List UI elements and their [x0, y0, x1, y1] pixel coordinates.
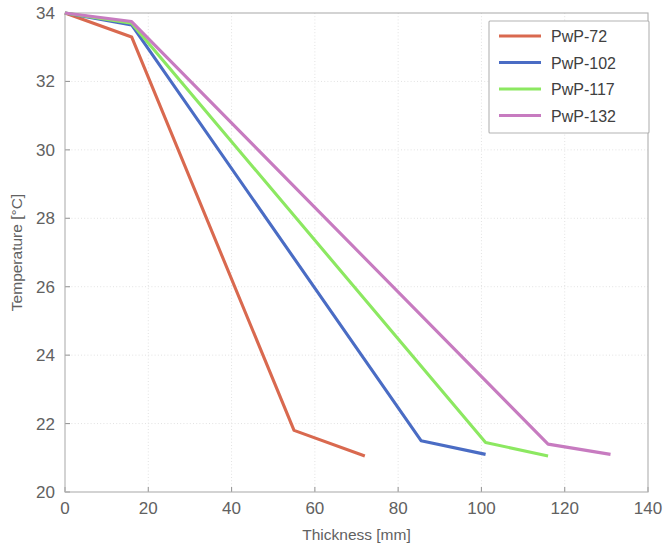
x-tick-label: 20	[139, 499, 158, 518]
chart-figure: 020406080100120140 2022242628303234 Thic…	[0, 0, 664, 544]
legend: PwP-72PwP-102PwP-117PwP-132	[489, 21, 649, 133]
y-tick-label: 34	[36, 4, 55, 23]
y-tick-label: 30	[36, 141, 55, 160]
x-tick-label: 60	[305, 499, 324, 518]
y-tick-label: 28	[36, 209, 55, 228]
y-tick-label: 26	[36, 278, 55, 297]
legend-label-pwp-102: PwP-102	[551, 55, 616, 72]
x-tick-label: 80	[389, 499, 408, 518]
y-tick-label: 24	[36, 346, 55, 365]
x-tick-label: 120	[551, 499, 579, 518]
legend-label-pwp-72: PwP-72	[551, 28, 607, 45]
x-tick-label: 100	[467, 499, 495, 518]
y-tick-label: 20	[36, 483, 55, 502]
y-axis-tick-labels: 2022242628303234	[36, 4, 55, 502]
legend-label-pwp-132: PwP-132	[551, 108, 616, 125]
y-tick-label: 32	[36, 72, 55, 91]
series-line-pwp-72	[65, 13, 365, 456]
x-axis-tick-labels: 020406080100120140	[60, 499, 662, 518]
legend-label-pwp-117: PwP-117	[551, 81, 615, 98]
series-line-pwp-117	[65, 13, 548, 456]
x-tick-label: 0	[60, 499, 69, 518]
x-tick-label: 40	[222, 499, 241, 518]
x-axis-title: Thickness [mm]	[302, 526, 411, 543]
x-tick-label: 140	[634, 499, 662, 518]
y-tick-label: 22	[36, 415, 55, 434]
line-chart: 020406080100120140 2022242628303234 Thic…	[0, 0, 664, 544]
y-axis-title: Temperature [°C]	[8, 194, 25, 311]
